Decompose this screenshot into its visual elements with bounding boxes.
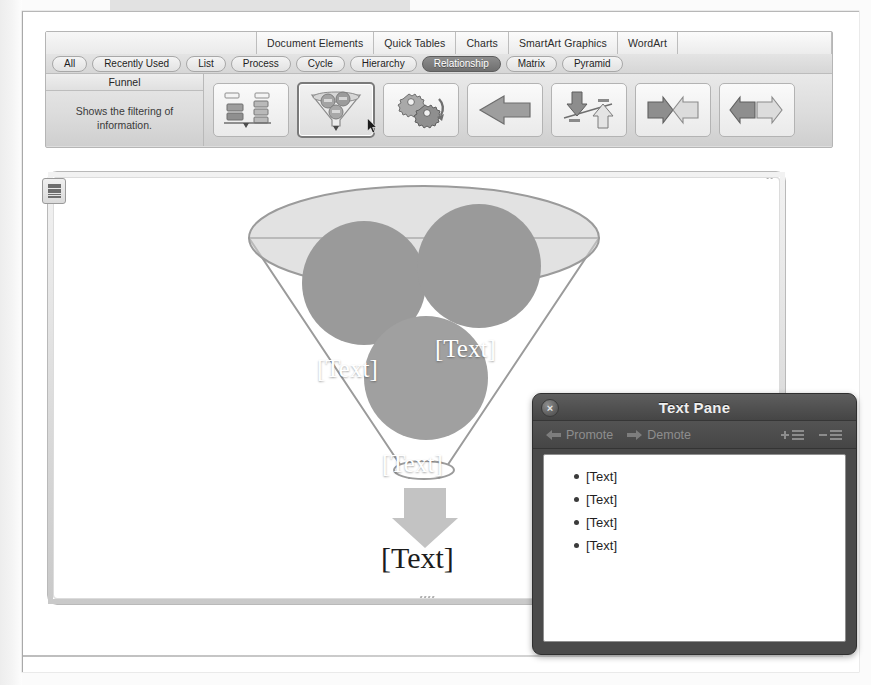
text-pane-list-item[interactable]: [Text] <box>544 534 845 557</box>
bullet-icon <box>574 497 579 502</box>
smartart-gallery: Funnel Shows the filtering of informatio… <box>46 74 832 146</box>
category-relationship[interactable]: Relationship <box>422 56 501 72</box>
gallery-thumbnail-strip <box>204 74 832 146</box>
grip-top-right[interactable] <box>767 177 773 179</box>
bullet-icon <box>574 543 579 548</box>
text-pane-list-item[interactable]: [Text] <box>544 511 845 534</box>
gallery-info-description: Shows the filtering of information. <box>46 91 203 146</box>
text-pane-item-label: [Text] <box>586 469 617 484</box>
tab-document-elements[interactable]: Document Elements <box>257 32 374 54</box>
funnel-bubble-2 <box>417 204 541 328</box>
grip-top-center[interactable] <box>420 177 434 178</box>
ribbon-tab-row: Document Elements Quick Tables Charts Sm… <box>46 32 832 55</box>
category-hierarchy[interactable]: Hierarchy <box>350 56 417 72</box>
converging-arrows-layout-icon <box>644 95 702 125</box>
text-pane-body[interactable]: [Text] [Text] [Text] [Text] <box>543 454 846 642</box>
bubble-label-2[interactable]: [Text] <box>435 335 496 363</box>
text-pane-bullet-list: [Text] [Text] [Text] [Text] <box>544 465 845 557</box>
diverging-arrows-layout-icon <box>728 95 786 125</box>
category-list[interactable]: List <box>186 56 226 72</box>
page-sheet-bottom-edge <box>23 655 843 657</box>
promote-button[interactable]: Promote <box>541 426 618 444</box>
tab-blank-left[interactable] <box>46 32 257 54</box>
gear-layout-icon <box>392 89 450 131</box>
thumb-balance-layout[interactable] <box>213 83 289 137</box>
reverse-arrows-layout-icon <box>560 90 618 130</box>
remove-shape-button[interactable] <box>814 426 848 444</box>
text-pane-toggle-button[interactable] <box>42 178 66 204</box>
category-cycle[interactable]: Cycle <box>296 56 345 72</box>
text-pane-toggle-icon <box>48 184 61 198</box>
add-shape-button[interactable] <box>776 426 810 444</box>
tab-quick-tables[interactable]: Quick Tables <box>374 32 456 54</box>
thumb-gear-layout[interactable] <box>383 83 459 137</box>
thumb-converging-arrows-layout[interactable] <box>635 83 711 137</box>
bubble-label-1[interactable]: [Text] <box>317 355 378 383</box>
category-process[interactable]: Process <box>231 56 291 72</box>
tab-smartart-graphics[interactable]: SmartArt Graphics <box>509 32 618 54</box>
text-pane-title-bar[interactable]: × Text Pane <box>533 394 856 421</box>
text-pane-title: Text Pane <box>659 399 731 416</box>
bullet-icon <box>574 474 579 479</box>
thumb-reverse-arrows-layout[interactable] <box>551 83 627 137</box>
mouse-cursor-icon <box>367 118 379 134</box>
scan-left-band <box>0 0 22 685</box>
text-pane-list-item[interactable]: [Text] <box>544 488 845 511</box>
gallery-info-panel: Funnel Shows the filtering of informatio… <box>46 74 204 146</box>
text-pane-item-label: [Text] <box>586 492 617 507</box>
category-all[interactable]: All <box>52 56 87 72</box>
text-pane-window[interactable]: × Text Pane Promote Demote <box>532 393 857 655</box>
ribbon-category-row: All Recently Used List Process Cycle Hie… <box>46 54 832 74</box>
text-pane-item-label: [Text] <box>586 538 617 553</box>
category-matrix[interactable]: Matrix <box>506 56 557 72</box>
tab-charts[interactable]: Charts <box>456 32 509 54</box>
funnel-output-arrow <box>392 488 458 548</box>
category-pyramid[interactable]: Pyramid <box>562 56 623 72</box>
arrow-left-icon <box>546 430 562 440</box>
bullet-icon <box>574 520 579 525</box>
element-gallery-ribbon: Document Elements Quick Tables Charts Sm… <box>45 31 833 148</box>
thumb-funnel-layout[interactable] <box>297 82 375 138</box>
grip-bottom-center[interactable] <box>420 596 434 599</box>
arrow-left-layout-icon <box>476 93 534 127</box>
tab-wordart[interactable]: WordArt <box>618 32 678 54</box>
bubble-label-3[interactable]: [Text] <box>382 450 443 478</box>
plus-bullets-icon <box>781 428 805 442</box>
thumb-arrow-left-layout[interactable] <box>467 83 543 137</box>
demote-button[interactable]: Demote <box>622 426 696 444</box>
category-recently-used[interactable]: Recently Used <box>92 56 181 72</box>
text-pane-toolbar: Promote Demote <box>533 421 856 449</box>
arrow-right-icon <box>627 430 643 440</box>
text-pane-item-label: [Text] <box>586 515 617 530</box>
demote-label: Demote <box>647 428 691 442</box>
funnel-output-label[interactable]: [Text] <box>381 541 454 575</box>
balance-layout-icon <box>221 90 281 130</box>
text-pane-list-item[interactable]: [Text] <box>544 465 845 488</box>
gallery-info-title: Funnel <box>46 74 203 91</box>
funnel-layout-icon <box>307 88 365 132</box>
tab-blank-right[interactable] <box>678 32 832 54</box>
thumb-diverging-arrows-layout[interactable] <box>719 83 795 137</box>
close-icon[interactable]: × <box>541 399 559 417</box>
promote-label: Promote <box>566 428 613 442</box>
minus-bullets-icon <box>819 428 843 442</box>
